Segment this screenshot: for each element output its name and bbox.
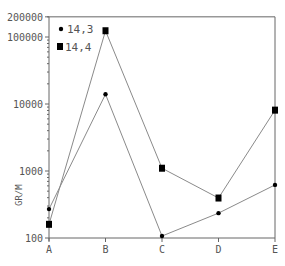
data-point-square (46, 221, 52, 228)
data-point-square (103, 27, 109, 34)
y-tick-label: 100000 (7, 32, 43, 43)
legend-label-1: 14,3 (67, 23, 94, 36)
chart: 100100010000100000200000 ABCDE GR/M 14,3… (0, 0, 285, 266)
data-point-square (272, 107, 278, 114)
x-tick-label: D (215, 244, 221, 255)
legend-label-2: 14,4 (65, 41, 92, 54)
series-group (46, 27, 278, 238)
data-point-square (216, 195, 222, 202)
data-point-circle (103, 92, 107, 96)
data-point-circle (273, 183, 277, 187)
y-tick-label: 10000 (13, 99, 43, 110)
series-line-2 (49, 31, 275, 225)
legend: 14,3 14,4 (57, 23, 94, 54)
x-tick-label: A (46, 244, 52, 255)
y-axis-label: GR/M (14, 184, 24, 206)
x-axis-ticks: ABCDE (46, 238, 278, 255)
data-point-circle (47, 207, 51, 211)
y-tick-label: 1000 (19, 166, 43, 177)
y-axis-ticks: 100100010000100000200000 (7, 12, 49, 244)
x-tick-label: C (159, 244, 165, 255)
x-tick-label: E (272, 244, 278, 255)
x-tick-label: B (102, 244, 108, 255)
data-point-circle (160, 234, 164, 238)
data-point-circle (216, 211, 220, 215)
legend-square-icon (57, 43, 63, 50)
data-point-square (159, 165, 165, 172)
legend-circle-icon (59, 27, 63, 31)
y-tick-label: 100 (25, 233, 43, 244)
y-tick-label: 200000 (7, 12, 43, 23)
